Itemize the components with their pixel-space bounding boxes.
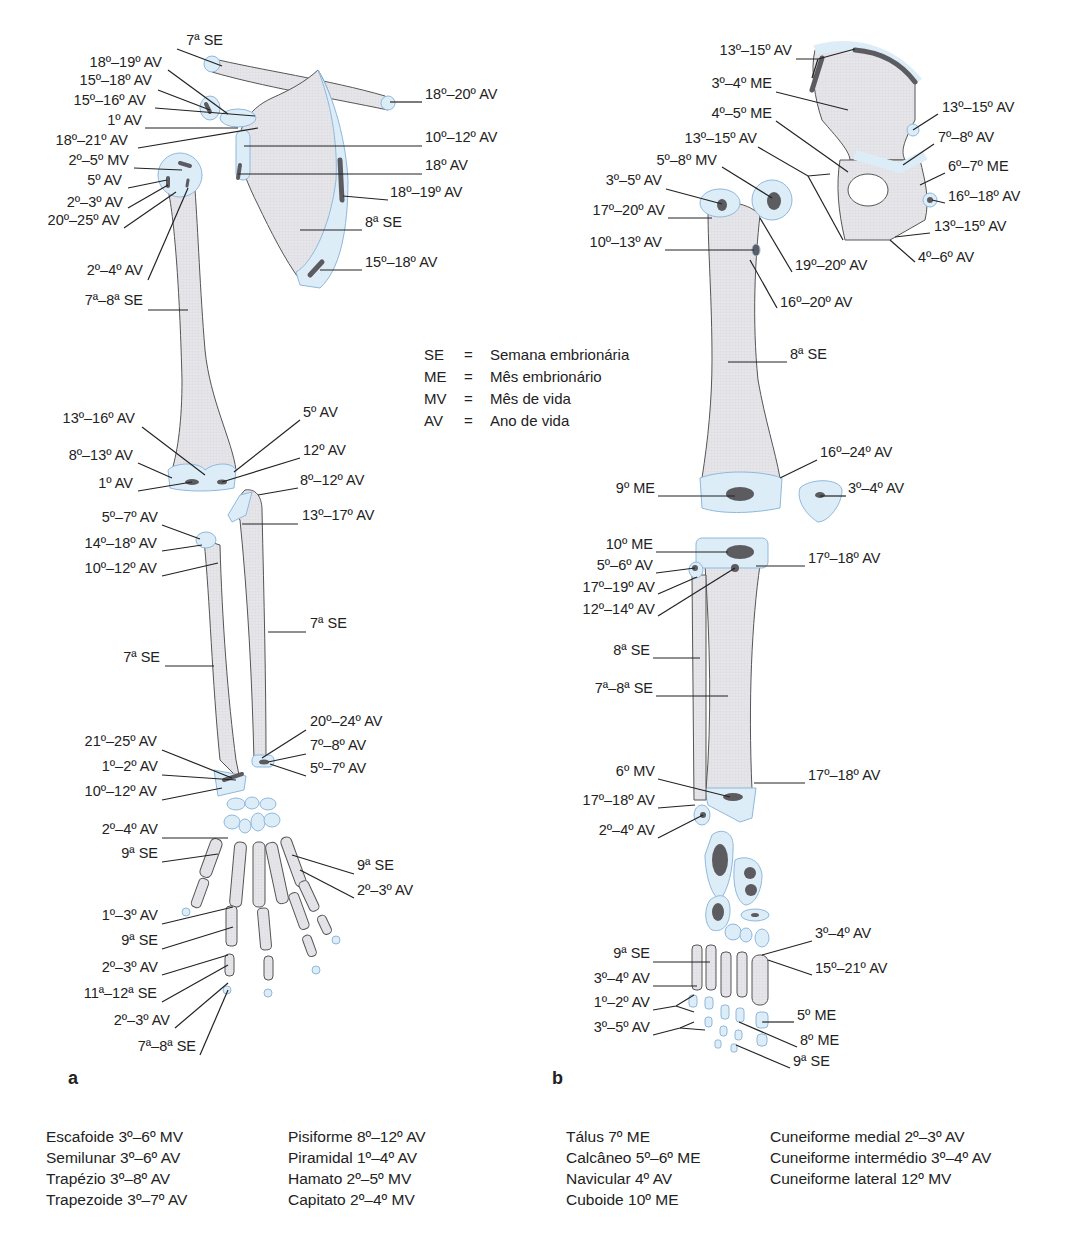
ossification-label: 8º–12º AV [300, 472, 364, 488]
ossification-label: 8ª SE [365, 214, 402, 230]
tarsal-item: Cuneiforme lateral 12º MV [770, 1168, 991, 1189]
legend-eq: = [464, 344, 490, 366]
scapula [200, 70, 348, 288]
radius [196, 532, 246, 796]
ossification-label: 1º AV [80, 112, 142, 128]
ossification-label: 21º–25º AV [65, 733, 157, 749]
foot-bones [689, 831, 769, 1052]
humerus [158, 153, 236, 491]
ossification-label: 3º–4º AV [848, 480, 904, 496]
ossification-label: 10º–12º AV [65, 783, 157, 799]
ossification-label: 2º–4º AV [68, 262, 143, 278]
ossification-label: 9ª SE [357, 857, 394, 873]
ossification-label: 18º–20º AV [425, 86, 497, 102]
legend-abbr: ME [424, 366, 464, 388]
legend-row-se: SE=Semana embrionária [424, 344, 629, 366]
ossification-label: 2º–4º AV [575, 822, 655, 838]
ossification-label: 20º–25º AV [30, 212, 120, 228]
ossification-label: 5º AV [303, 404, 338, 420]
legend-meaning: Semana embrionária [490, 344, 629, 366]
tarsal-item: Tálus 7º ME [566, 1126, 701, 1147]
ossification-label: 7ª SE [110, 649, 160, 665]
legend-row-me: ME=Mês embrionário [424, 366, 629, 388]
ossification-label: 17º–18º AV [808, 550, 880, 566]
ossification-label: 2º–3º AV [90, 1012, 170, 1028]
ossification-label: 16º–24º AV [820, 444, 892, 460]
tarsal-item: Calcâneo 5º–6º ME [566, 1147, 701, 1168]
patella [799, 481, 842, 522]
ossification-label: 12º AV [303, 442, 346, 458]
ossification-label: 15º–21º AV [815, 960, 887, 976]
ossification-label: 18º–19º AV [390, 184, 462, 200]
ossification-label: 9ª SE [108, 845, 158, 861]
ossification-label: 2º–3º AV [48, 194, 123, 210]
ossification-diagram [0, 0, 1080, 1246]
tarsal-item: Cuneiforme medial 2º–3º AV [770, 1126, 991, 1147]
ossification-label: 8º–13º AV [58, 447, 133, 463]
tibia [696, 538, 768, 822]
legend-abbr: MV [424, 388, 464, 410]
ossification-label: 5º ME [797, 1007, 836, 1023]
ossification-label: 13º–17º AV [302, 507, 374, 523]
ossification-label: 16º–20º AV [780, 294, 852, 310]
ossification-label: 7º–8º AV [938, 129, 994, 145]
ossification-label: 8ª SE [600, 642, 650, 658]
tarsal-item: Navicular 4º AV [566, 1168, 701, 1189]
pelvis [812, 46, 937, 240]
legend-meaning: Mês embrionário [490, 366, 602, 388]
ossification-label: 5º–6º AV [575, 557, 653, 573]
femur [700, 180, 792, 513]
legend-abbr: AV [424, 410, 464, 432]
ossification-label: 13º–15º AV [700, 42, 792, 58]
legend-row-av: AV=Ano de vida [424, 410, 629, 432]
ossification-label: 15º–16º AV [64, 92, 146, 108]
tarsal-list-col1: Tálus 7º ME Calcâneo 5º–6º ME Navicular … [566, 1126, 701, 1210]
ossification-label: 4º–5º ME [690, 105, 772, 121]
ossification-label: 6º MV [600, 763, 655, 779]
carpal-item: Trapezoide 3º–7º AV [46, 1189, 187, 1210]
abbreviation-legend: SE=Semana embrionária ME=Mês embrionário… [424, 344, 629, 432]
legend-meaning: Mês de vida [490, 388, 571, 410]
carpal-list-col1: Escafoide 3º–6º MV Semilunar 3º–6º AV Tr… [46, 1126, 187, 1210]
legend-abbr: SE [424, 344, 464, 366]
ossification-label: 7ª SE [310, 615, 347, 631]
ossification-label: 9º ME [595, 480, 655, 496]
legend-eq: = [464, 366, 490, 388]
ossification-label: 7ª–8ª SE [68, 292, 143, 308]
ossification-label: 10º ME [595, 536, 653, 552]
panel-label-b: b [552, 1068, 563, 1089]
ossification-label: 7ª SE [163, 32, 223, 48]
ossification-label: 13º–16º AV [50, 410, 135, 426]
ossification-label: 5º–7º AV [83, 509, 158, 525]
ossification-label: 14º–18º AV [65, 535, 157, 551]
carpal-list-col2: Pisiforme 8º–12º AV Piramidal 1º–4º AV H… [288, 1126, 426, 1210]
ossification-label: 3º–4º AV [815, 925, 871, 941]
ossification-label: 5º AV [60, 172, 122, 188]
ossification-label: 7ª–8ª SE [118, 1038, 196, 1054]
ossification-label: 11ª–12ª SE [65, 985, 157, 1001]
hand-bones [182, 797, 340, 997]
ossification-label: 18º–21º AV [46, 132, 128, 148]
ossification-label: 6º–7º ME [948, 158, 1009, 174]
carpal-item: Pisiforme 8º–12º AV [288, 1126, 426, 1147]
ossification-label: 9ª SE [600, 945, 650, 961]
ossification-label: 17º–18º AV [565, 792, 655, 808]
ossification-label: 3º–4º ME [690, 75, 772, 91]
ossification-label: 9ª SE [108, 932, 158, 948]
ossification-label: 18º–19º AV [80, 54, 162, 70]
ossification-label: 15º–18º AV [365, 254, 437, 270]
ossification-label: 3º–4º AV [570, 970, 650, 986]
ossification-label: 8ª SE [790, 346, 827, 362]
tarsal-item: Cuneiforme intermédio 3º–4º AV [770, 1147, 991, 1168]
ossification-label: 17º–19º AV [565, 579, 655, 595]
ossification-label: 12º–14º AV [565, 601, 655, 617]
ossification-label: 20º–24º AV [310, 713, 382, 729]
panel-label-a: a [68, 1068, 78, 1089]
ossification-label: 19º–20º AV [795, 257, 867, 273]
carpal-item: Semilunar 3º–6º AV [46, 1147, 187, 1168]
legend-eq: = [464, 388, 490, 410]
ossification-label: 1º–3º AV [78, 907, 158, 923]
ossification-label: 2º–4º AV [78, 821, 158, 837]
ossification-label: 10º–13º AV [570, 234, 662, 250]
ossification-label: 10º–12º AV [65, 560, 157, 576]
